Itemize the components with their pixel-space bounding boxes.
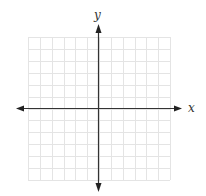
y-axis-down-arrow-icon [96,183,102,192]
x-axis-right-arrow-icon [174,106,182,112]
x-axis-left-arrow-icon [16,106,24,112]
y-axis-label: y [93,8,101,22]
x-axis-label: x [188,101,195,115]
y-axis-up-arrow-icon [96,24,102,33]
coordinate-plane: x y [0,0,206,196]
